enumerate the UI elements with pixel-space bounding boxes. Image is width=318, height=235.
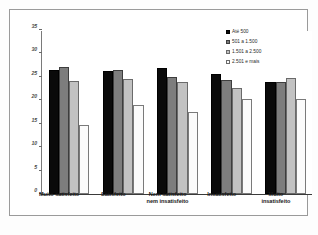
- y-tick-label: 35: [31, 24, 37, 29]
- y-tick-mark: [39, 29, 42, 30]
- legend-item[interactable]: Até 500: [226, 27, 298, 36]
- bar-group: [96, 31, 150, 194]
- bar: [276, 82, 286, 194]
- y-tick-label: 30: [31, 47, 37, 52]
- bar: [157, 68, 167, 195]
- y-tick: 30: [18, 52, 42, 53]
- legend-swatch-icon: [226, 40, 230, 44]
- bar: [188, 112, 198, 194]
- bar: [211, 74, 221, 194]
- y-tick: 15: [18, 123, 42, 124]
- y-tick: 20: [18, 99, 42, 100]
- legend-item[interactable]: 501 a 1.500: [226, 37, 298, 46]
- bar: [242, 99, 252, 194]
- legend-label: 501 a 1.500: [232, 39, 257, 44]
- y-tick: 25: [18, 76, 42, 77]
- y-tick: 10: [18, 146, 42, 147]
- x-category-label-line: nem insatisfeito: [131, 198, 205, 205]
- legend-label: 2.501 e mais: [232, 59, 259, 64]
- bar: [286, 78, 296, 194]
- y-tick-label: 10: [31, 141, 37, 146]
- bar: [103, 71, 113, 194]
- bar: [79, 125, 89, 194]
- x-category-label-line: insatisfeito: [239, 198, 313, 205]
- y-tick-label: 15: [31, 118, 37, 123]
- legend-swatch-icon: [226, 60, 230, 64]
- bar: [49, 70, 59, 194]
- bar: [113, 70, 123, 194]
- x-category-label: Muitoinsatisfeito: [239, 191, 313, 205]
- y-tick-label: 5: [34, 165, 37, 170]
- y-tick: 35: [18, 29, 42, 30]
- bar: [296, 99, 306, 194]
- bar: [232, 88, 242, 194]
- legend-item[interactable]: 2.501 e mais: [226, 57, 298, 66]
- chart-figure: 05101520253035 Muito satisfeitoSatisfeit…: [0, 0, 318, 235]
- bar: [123, 79, 133, 194]
- legend-item[interactable]: 1.501 a 2.500: [226, 47, 298, 56]
- bar: [133, 105, 143, 194]
- legend-label: 1.501 a 2.500: [232, 49, 261, 54]
- y-tick: 5: [18, 170, 42, 171]
- chart-legend: Até 500501 a 1.5001.501 a 2.5002.501 e m…: [226, 27, 298, 67]
- legend-swatch-icon: [226, 30, 230, 34]
- x-category-label-line: Muito: [239, 191, 313, 198]
- legend-swatch-icon: [226, 50, 230, 54]
- bar: [167, 77, 177, 194]
- y-tick-label: 25: [31, 71, 37, 76]
- legend-label: Até 500: [232, 29, 249, 34]
- chart-outer-frame: 05101520253035 Muito satisfeitoSatisfeit…: [9, 9, 308, 216]
- bar-group: [150, 31, 204, 194]
- bar: [265, 82, 275, 194]
- bar-group: [42, 31, 96, 194]
- bar: [59, 67, 69, 194]
- bar: [177, 82, 187, 194]
- bar: [69, 81, 79, 194]
- y-tick-label: 20: [31, 94, 37, 99]
- bar: [221, 80, 231, 194]
